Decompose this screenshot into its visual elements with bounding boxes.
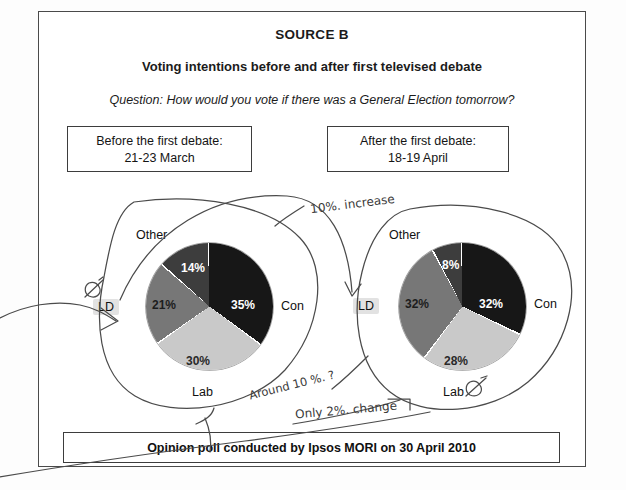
page-canvas: SOURCE B Voting intentions before and af… xyxy=(0,0,626,490)
pie-after-lab-label: Lab xyxy=(443,385,464,399)
pie-before-other-label: Other xyxy=(136,228,167,242)
pie-after-ld-value: 32% xyxy=(405,297,429,311)
source-b-box: SOURCE B Voting intentions before and af… xyxy=(38,11,586,467)
pie-before-lab-value: 30% xyxy=(186,354,210,368)
caption-after-line1: After the first debate: xyxy=(360,134,476,148)
caption-before-line1: Before the first debate: xyxy=(96,134,222,148)
caption-after-debate: After the first debate: 18-19 April xyxy=(327,126,509,172)
pie-before-other-value: 14% xyxy=(181,261,205,275)
pie-after-ld-label: LD xyxy=(353,298,379,314)
pie-before-lab-label: Lab xyxy=(192,385,213,399)
pie-after-con-label: Con xyxy=(534,297,557,311)
pie-after-con-value: 32% xyxy=(479,297,503,311)
pie-after-other-value: 8% xyxy=(442,258,459,272)
pie-after-other-label: Other xyxy=(389,228,420,242)
caption-after-line2: 18-19 April xyxy=(328,150,508,167)
pie-after-lab-value: 28% xyxy=(444,354,468,368)
pie-before-con-value: 35% xyxy=(231,298,255,312)
pie-before-ld-value: 21% xyxy=(152,298,176,312)
source-question: Question: How would you vote if there wa… xyxy=(39,93,585,107)
poll-source-footer: Opinion poll conducted by Ipsos MORI on … xyxy=(63,432,560,463)
poll-source-text: Opinion poll conducted by Ipsos MORI on … xyxy=(147,441,476,455)
pie-before-con-label: Con xyxy=(281,299,304,313)
caption-before-line2: 21-23 March xyxy=(68,150,251,167)
source-title: SOURCE B xyxy=(39,27,585,42)
caption-before-debate: Before the first debate: 21-23 March xyxy=(67,126,252,172)
source-subtitle: Voting intentions before and after first… xyxy=(39,59,585,74)
pie-before-ld-label: LD xyxy=(93,299,119,315)
